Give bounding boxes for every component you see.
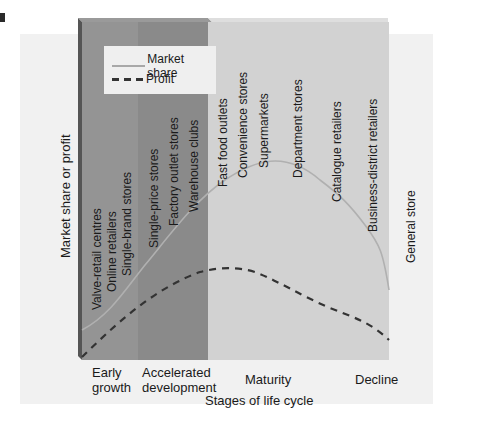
solid-line-icon xyxy=(112,65,145,67)
format-label: Business-district retailers xyxy=(366,99,380,232)
format-label: General store xyxy=(404,190,418,263)
format-label: Supermarkets xyxy=(257,93,271,168)
stage-label-early-growth: Early growth xyxy=(92,365,131,395)
legend: Market share Profit xyxy=(104,46,216,94)
format-label: Department stores xyxy=(291,79,305,178)
y-axis-label: Market share or profit xyxy=(58,134,73,258)
stage-label-maturity: Maturity xyxy=(245,372,291,387)
format-label: Catalogue retailers xyxy=(330,101,344,202)
legend-item-profit: Profit xyxy=(112,72,174,86)
format-label: Single-price stores xyxy=(147,149,161,248)
format-label: Fast food outlets xyxy=(216,98,230,187)
stage-label-decline: Decline xyxy=(355,372,398,387)
format-label: Factory outlet stores xyxy=(167,117,181,226)
format-label: Valve-retail centres xyxy=(90,208,104,310)
format-label: Warehouse clubs xyxy=(187,120,201,212)
format-label: Single-brand stores xyxy=(120,172,134,276)
dashed-line-icon xyxy=(112,78,146,81)
format-label: Online retailers xyxy=(105,211,119,292)
stage-label-accelerated-development: Accelerated development xyxy=(142,365,216,395)
format-label: Convenience stores xyxy=(236,72,250,178)
x-axis-label: Stages of life cycle xyxy=(205,393,313,408)
